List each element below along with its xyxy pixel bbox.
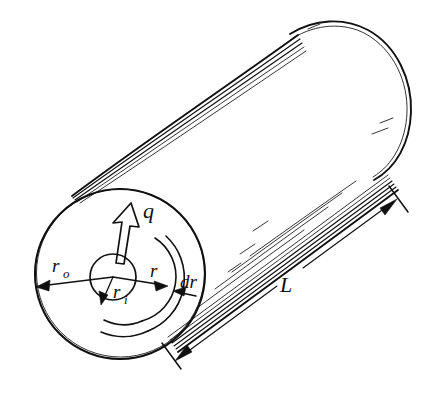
label-ro-group: r bbox=[52, 255, 60, 276]
body-bottom-hatch-2 bbox=[174, 184, 394, 346]
bore-ruling-4 bbox=[250, 181, 356, 256]
length-dim-segment-lower bbox=[179, 286, 277, 358]
heat-flow-arrow-group bbox=[113, 203, 139, 264]
length-dim-segment-upper bbox=[303, 202, 393, 268]
outer-radius-dimension bbox=[36, 277, 113, 291]
bore-dash-1 bbox=[240, 244, 255, 254]
label-ro-base: r bbox=[52, 255, 60, 276]
label-L: L bbox=[279, 272, 292, 297]
label-ro-subscript: o bbox=[63, 266, 70, 281]
q-arrow bbox=[113, 203, 139, 264]
body-bottom-hatch-1 bbox=[176, 187, 396, 349]
figure-canvas: Hollow cylinder radial conduction diagra… bbox=[0, 0, 435, 414]
label-ri-subscript: i bbox=[124, 292, 128, 307]
cylinder-body bbox=[72, 21, 411, 352]
body-top-edge bbox=[72, 35, 298, 196]
far-end-cap-outline bbox=[290, 21, 411, 180]
ro-leader bbox=[40, 277, 113, 286]
bore-ruling-2 bbox=[215, 207, 328, 289]
body-top-hatch-3 bbox=[77, 47, 304, 202]
body-top-hatch-2 bbox=[75, 43, 302, 200]
bore-ruling-3 bbox=[232, 193, 342, 272]
radius-dimension bbox=[113, 277, 168, 291]
cylinder-diagram: Hollow cylinder radial conduction diagra… bbox=[0, 0, 435, 414]
inner-radius-dimension bbox=[99, 277, 113, 305]
body-top-hatch-4 bbox=[80, 51, 306, 203]
body-top-hatch-1 bbox=[73, 39, 300, 198]
label-r: r bbox=[150, 260, 158, 281]
bore-dash-6 bbox=[372, 128, 388, 134]
body-bottom-hatch-5 bbox=[168, 175, 388, 337]
bore-dash-5 bbox=[380, 118, 393, 123]
body-bottom-edge bbox=[178, 190, 398, 352]
element-inner-arc-tail bbox=[104, 320, 142, 325]
bore-dash-2 bbox=[253, 221, 268, 231]
label-q: q bbox=[143, 198, 154, 223]
label-ri-base: r bbox=[113, 281, 121, 302]
element-inner-arc bbox=[142, 238, 176, 321]
r-arrowhead bbox=[154, 281, 168, 291]
element-outer-arc-tail bbox=[101, 331, 148, 337]
label-dr: dr bbox=[180, 271, 198, 292]
